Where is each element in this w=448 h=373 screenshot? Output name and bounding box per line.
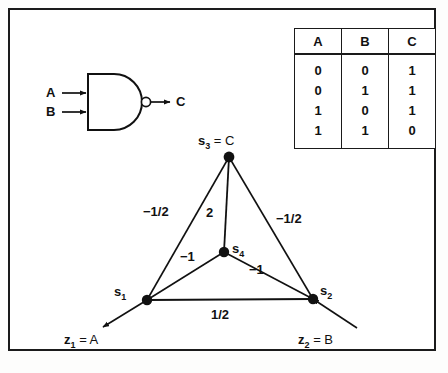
truth-table-cell: 1 bbox=[389, 80, 436, 100]
truth-table-cell: 1 bbox=[389, 60, 436, 80]
truth-table-spacer bbox=[342, 140, 389, 149]
edge-weight-s3-s2: −1/2 bbox=[276, 212, 302, 225]
node-label-s4: s4 bbox=[232, 242, 244, 259]
truth-table-cell: 0 bbox=[295, 60, 342, 80]
gate-input-b-label: B bbox=[46, 105, 55, 118]
gate-input-a-label: A bbox=[46, 86, 55, 99]
node-s3 bbox=[224, 152, 235, 163]
node-s2 bbox=[308, 294, 318, 304]
edge-weight-s4-s2: −1 bbox=[249, 263, 264, 276]
node-label-s1: s1 bbox=[114, 285, 126, 302]
edge-weight-s1-s2: 1/2 bbox=[211, 308, 229, 321]
nand-gate-symbol bbox=[62, 74, 170, 130]
truth-table-header-c: C bbox=[389, 29, 436, 55]
edge-s1-s3 bbox=[147, 157, 229, 300]
inversion-bubble-icon bbox=[141, 97, 150, 106]
node-label-s2-index: 2 bbox=[327, 291, 332, 301]
truth-table-header-b: B bbox=[342, 29, 389, 55]
node-label-s4-index: 4 bbox=[239, 249, 244, 259]
node-label-s2: s2 bbox=[320, 284, 332, 301]
node-s1 bbox=[142, 295, 152, 305]
truth-table-cell: 0 bbox=[389, 120, 436, 140]
table-row: 0 1 1 bbox=[295, 80, 436, 100]
figure-container: A B C A B C 0 0 1 0 1 1 bbox=[0, 0, 448, 373]
node-label-s3-equals: = C bbox=[210, 133, 234, 148]
network-nodes bbox=[142, 152, 318, 306]
input-arrow-z1 bbox=[103, 300, 147, 327]
table-row: 1 0 1 bbox=[295, 100, 436, 120]
truth-table-cell: 1 bbox=[295, 100, 342, 120]
input-arrow-z2 bbox=[313, 299, 357, 328]
truth-table-cell: 0 bbox=[295, 80, 342, 100]
truth-table-cell: 1 bbox=[342, 80, 389, 100]
truth-table-cell: 0 bbox=[342, 100, 389, 120]
gate-output-c-label: C bbox=[176, 95, 185, 108]
edge-s3-s4 bbox=[224, 157, 229, 252]
input-label-z1: z1 = A bbox=[64, 333, 98, 350]
edge-weight-s1-s3: −1/2 bbox=[143, 205, 169, 218]
edge-s1-s2 bbox=[147, 299, 313, 300]
network-input-arrows bbox=[103, 299, 357, 328]
truth-table-cell: 1 bbox=[389, 100, 436, 120]
truth-table-cell: 1 bbox=[295, 120, 342, 140]
table-row bbox=[295, 140, 436, 149]
truth-table-header-row: A B C bbox=[295, 29, 436, 55]
table-row: 1 1 0 bbox=[295, 120, 436, 140]
input-label-z2: z2 = B bbox=[298, 333, 333, 350]
truth-table-spacer bbox=[295, 140, 342, 149]
table-row: 0 0 1 bbox=[295, 60, 436, 80]
truth-table-cell: 1 bbox=[342, 120, 389, 140]
input-label-z2-equals: = B bbox=[310, 332, 334, 347]
edge-weight-s3-s4: 2 bbox=[206, 206, 213, 219]
edge-weight-s1-s4: −1 bbox=[180, 250, 195, 263]
truth-table-spacer bbox=[389, 140, 436, 149]
node-label-s1-index: 1 bbox=[121, 292, 126, 302]
input-label-z1-equals: = A bbox=[76, 332, 99, 347]
node-s4 bbox=[219, 247, 229, 257]
truth-table-header-a: A bbox=[295, 29, 342, 55]
node-label-s3: s3 = C bbox=[198, 134, 234, 151]
network-edges bbox=[147, 157, 313, 300]
truth-table: A B C 0 0 1 0 1 1 1 0 bbox=[294, 28, 436, 149]
truth-table-cell: 0 bbox=[342, 60, 389, 80]
